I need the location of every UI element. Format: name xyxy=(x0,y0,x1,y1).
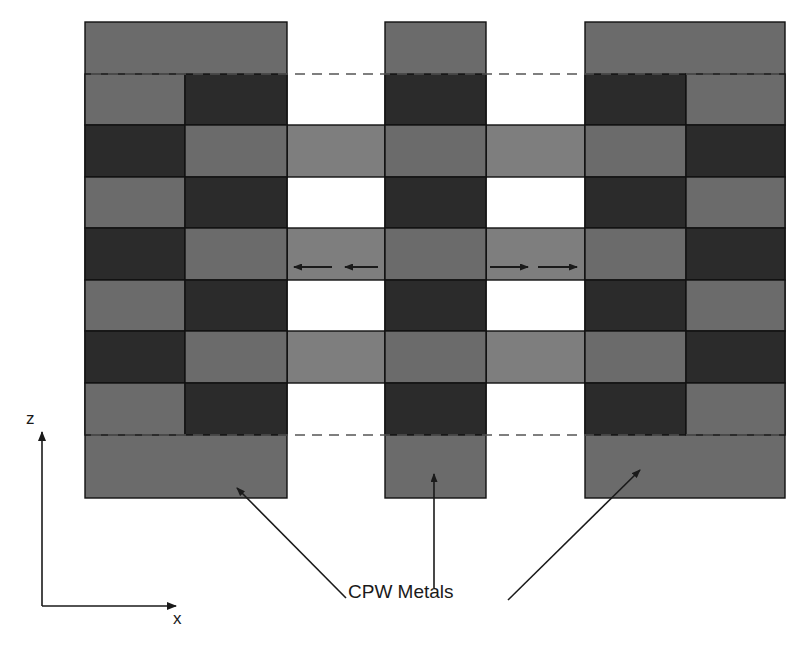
right-metal-outer-cell xyxy=(686,177,785,228)
center-metal-cell xyxy=(385,177,486,228)
right-metal-outer-cell xyxy=(686,228,785,280)
center-metal-cell xyxy=(385,74,486,125)
left-metal-outer-cell xyxy=(85,331,185,383)
left-metal-outer-cell xyxy=(85,228,185,280)
right-metal-inner-cell xyxy=(585,228,686,280)
connector-strip-left xyxy=(287,331,385,383)
left-metal-inner-cell xyxy=(185,280,287,331)
center-metal-cell xyxy=(385,280,486,331)
right-metal-inner-cell xyxy=(585,280,686,331)
left-metal-inner-cell xyxy=(185,177,287,228)
right-metal-inner-cell xyxy=(585,177,686,228)
right-metal-outer-cell xyxy=(686,125,785,177)
pointer-arrow-left-metal-icon xyxy=(237,488,346,598)
center-metal-cell xyxy=(385,125,486,177)
connector-strip-right xyxy=(486,228,585,280)
right-metal-outer-cell xyxy=(686,383,785,435)
left-metal-outer-cell xyxy=(85,383,185,435)
right-metal-outer-cell xyxy=(686,280,785,331)
pointer-arrow-right-metal-icon xyxy=(508,470,640,600)
center-metal-cell xyxy=(385,228,486,280)
left-metal-inner-cell xyxy=(185,383,287,435)
cpw-metals-label: CPW Metals xyxy=(348,581,454,603)
left-metal-outer-cell xyxy=(85,177,185,228)
right-metal-inner-cell xyxy=(585,125,686,177)
right-metal-outer-cell xyxy=(686,74,785,125)
right-metal-outer-cell xyxy=(686,331,785,383)
connector-strip-right xyxy=(486,125,585,177)
center-metal-cell xyxy=(385,331,486,383)
connector-strip-left xyxy=(287,228,385,280)
right-metal-inner-cell xyxy=(585,331,686,383)
right-metal-inner-cell xyxy=(585,74,686,125)
connector-strip-left xyxy=(287,125,385,177)
connector-strip-right xyxy=(486,331,585,383)
left-metal-outer-cell xyxy=(85,125,185,177)
x-axis-label: x xyxy=(173,609,182,629)
cpw-diagram xyxy=(0,0,800,646)
left-metal-outer-cell xyxy=(85,280,185,331)
z-axis-label: z xyxy=(26,409,35,429)
left-metal-inner-cell xyxy=(185,228,287,280)
right-metal-inner-cell xyxy=(585,383,686,435)
left-metal-inner-cell xyxy=(185,125,287,177)
center-metal-cell xyxy=(385,383,486,435)
left-metal-outer-cell xyxy=(85,74,185,125)
cpw-structure xyxy=(85,22,785,498)
left-metal-inner-cell xyxy=(185,331,287,383)
left-metal-inner-cell xyxy=(185,74,287,125)
